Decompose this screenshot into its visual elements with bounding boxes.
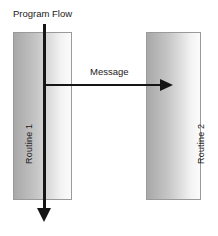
program-flow-label: Program Flow <box>13 8 72 19</box>
routine-2-label: Routine 2 <box>196 124 206 164</box>
message-arrow-line <box>44 84 166 86</box>
routine-1-label: Routine 1 <box>24 124 34 164</box>
routine-2-lifeline-box <box>146 32 201 200</box>
program-flow-arrow-line <box>43 24 46 210</box>
sequence-diagram-canvas: Program Flow Routine 1 Routine 2 Message <box>0 0 218 236</box>
program-flow-arrowhead-icon <box>37 208 51 222</box>
message-arrowhead-icon <box>160 79 173 91</box>
message-label: Message <box>90 66 129 77</box>
